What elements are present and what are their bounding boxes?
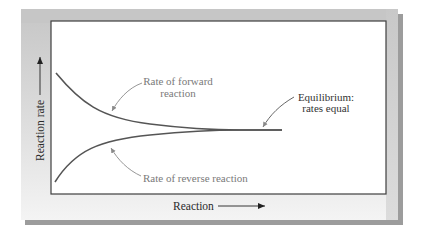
equilibrium-label-line2: rates equal xyxy=(302,102,349,114)
forward-label-line2: reaction xyxy=(160,87,196,99)
chart-figure: Rate of forward reaction Rate of reverse… xyxy=(0,0,422,232)
reverse-label: Rate of reverse reaction xyxy=(143,172,248,184)
figure: Rate of forward reaction Rate of reverse… xyxy=(0,0,422,232)
y-axis-label: Reaction rate xyxy=(34,100,46,161)
forward-label-line1: Rate of forward xyxy=(143,75,213,87)
x-axis-label: Reaction xyxy=(173,200,214,212)
